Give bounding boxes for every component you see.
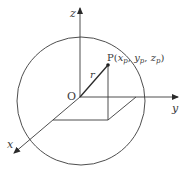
y-axis-label: y	[171, 102, 179, 115]
x-axis-label: x	[7, 138, 14, 151]
origin-label: O	[67, 90, 76, 103]
sphere-coordinate-diagram: z y x O r P(xp, yp, zp)	[0, 0, 189, 174]
x-axis	[14, 97, 80, 153]
projection-right-edge	[108, 97, 136, 120]
z-axis-label: z	[69, 7, 76, 20]
point-p-label: P(xp, yp, zp)	[107, 52, 164, 65]
radius-label: r	[90, 69, 96, 80]
